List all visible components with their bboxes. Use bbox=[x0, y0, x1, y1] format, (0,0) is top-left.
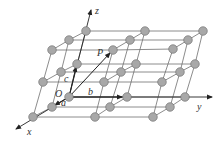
lattice-atom bbox=[29, 113, 38, 122]
lattice-edge bbox=[61, 40, 69, 72]
lattice-atom bbox=[166, 103, 175, 112]
lattice-atom bbox=[65, 36, 74, 45]
lattice-edge bbox=[153, 82, 162, 117]
lattice-atom bbox=[132, 60, 141, 69]
vector-c-label: c bbox=[64, 73, 69, 84]
vector-b-label: b bbox=[88, 86, 93, 97]
lattice-edge bbox=[33, 82, 43, 117]
lattice-atom bbox=[117, 68, 126, 77]
lattice-atom bbox=[123, 93, 132, 102]
lattice-atom bbox=[181, 93, 190, 102]
lattice-atom bbox=[176, 68, 185, 77]
lattice-atom bbox=[199, 27, 208, 36]
lattice-atom bbox=[39, 78, 48, 87]
point-p-label: P bbox=[96, 47, 103, 58]
x-axis-label: x bbox=[26, 126, 32, 137]
lattice-atom bbox=[109, 46, 118, 55]
crystal-lattice-diagram: z y x O a b c P bbox=[0, 0, 221, 154]
lattice-edge bbox=[127, 64, 136, 97]
lattice-atom bbox=[141, 27, 150, 36]
vector-a-label: a bbox=[61, 97, 66, 108]
lattice-atom bbox=[126, 36, 135, 45]
y-axis-label: y bbox=[196, 101, 202, 112]
lattice-atom bbox=[106, 103, 115, 112]
lattice-atom bbox=[169, 45, 178, 54]
lattice-atom bbox=[158, 78, 167, 87]
lattice-atom bbox=[100, 78, 109, 87]
lattice-atom bbox=[73, 60, 82, 69]
lattice-atom bbox=[191, 60, 200, 69]
lattice-atom bbox=[91, 113, 100, 122]
lattice-edge bbox=[113, 49, 173, 50]
lattice-atom bbox=[149, 113, 158, 122]
lattice-edge bbox=[180, 40, 188, 72]
z-axis-label: z bbox=[94, 5, 99, 16]
lattice-atom bbox=[184, 36, 193, 45]
lattice-edge bbox=[43, 50, 52, 82]
lattice-atom bbox=[48, 103, 57, 112]
lattice-edge bbox=[195, 31, 203, 64]
lattice-atom bbox=[48, 46, 57, 55]
lattice-atom bbox=[82, 27, 91, 36]
